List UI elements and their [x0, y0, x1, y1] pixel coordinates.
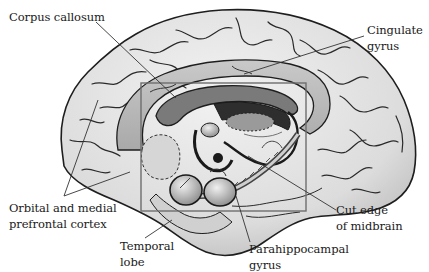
- brain-diagram: Corpus callosum Cingulate gyrus Orbital …: [0, 0, 429, 272]
- label-orbital-line1: Orbital and medial: [9, 200, 117, 216]
- label-orbital-line2: prefrontal cortex: [9, 216, 117, 232]
- label-temporal-line2: lobe: [120, 254, 174, 270]
- label-temporal-lobe: Temporal lobe: [120, 238, 174, 270]
- label-parahippocampal-line1: Parahippocampal: [249, 241, 349, 257]
- label-cut-edge-midbrain: Cut edge of midbrain: [336, 202, 402, 234]
- label-cut-edge-line1: Cut edge: [336, 202, 402, 218]
- label-temporal-line1: Temporal: [120, 238, 174, 254]
- orbital-prefrontal-region: [141, 135, 179, 180]
- label-parahippocampal-gyrus: Parahippocampal gyrus: [249, 241, 349, 272]
- label-corpus-callosum-line1: Corpus callosum: [9, 9, 105, 25]
- label-cingulate-gyrus: Cingulate gyrus: [367, 22, 423, 54]
- label-corpus-callosum: Corpus callosum: [9, 9, 105, 25]
- label-cingulate-gyrus-line2: gyrus: [367, 38, 423, 54]
- label-cut-edge-line2: of midbrain: [336, 218, 402, 234]
- label-parahippocampal-line2: gyrus: [249, 257, 349, 272]
- label-cingulate-gyrus-line1: Cingulate: [367, 22, 423, 38]
- label-orbital-medial-prefrontal-cortex: Orbital and medial prefrontal cortex: [9, 200, 117, 232]
